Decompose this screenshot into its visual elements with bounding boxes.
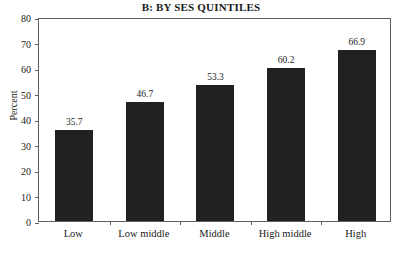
y-tick-label: 30 (3, 139, 31, 154)
x-axis-category-label: High middle (250, 228, 321, 239)
y-tick-label: 0 (3, 215, 31, 230)
bar (267, 68, 305, 222)
x-axis-category-label: Low (38, 228, 109, 239)
x-tick-mark (180, 221, 181, 225)
plot-area: 01020304050607080 35.746.753.360.266.9 (38, 18, 391, 222)
y-tick-label: 70 (3, 37, 31, 52)
bar (126, 102, 164, 221)
bar-slot: 66.9 (321, 19, 392, 221)
bar (55, 130, 93, 221)
bar-value-label: 35.7 (66, 117, 83, 127)
y-tick-mark (35, 223, 39, 224)
chart-title: B: BY SES QUINTILES (0, 1, 402, 13)
y-tick-label: 50 (3, 88, 31, 103)
x-tick-mark (321, 221, 322, 225)
bar (196, 85, 234, 221)
y-tick-label: 40 (3, 113, 31, 128)
bar-chart-figure: B: BY SES QUINTILES Percent 010203040506… (0, 0, 402, 260)
bar-value-label: 46.7 (137, 89, 154, 99)
bar-slot: 60.2 (251, 19, 322, 221)
x-tick-mark (110, 221, 111, 225)
x-axis-category-label: High (320, 228, 391, 239)
bar-value-label: 66.9 (348, 37, 365, 47)
x-axis-category-label: Low middle (109, 228, 180, 239)
bar-slot: 46.7 (110, 19, 181, 221)
x-axis-category-label: Middle (179, 228, 250, 239)
y-tick-label: 80 (3, 11, 31, 26)
bar-slot: 53.3 (180, 19, 251, 221)
x-tick-mark (251, 221, 252, 225)
bar-slot: 35.7 (39, 19, 110, 221)
y-tick-label: 10 (3, 190, 31, 205)
y-axis-label: Percent (8, 71, 19, 141)
y-tick-label: 20 (3, 164, 31, 179)
bar-value-label: 60.2 (278, 55, 295, 65)
bar (338, 50, 376, 221)
y-tick-label: 60 (3, 62, 31, 77)
bar-value-label: 53.3 (207, 72, 224, 82)
